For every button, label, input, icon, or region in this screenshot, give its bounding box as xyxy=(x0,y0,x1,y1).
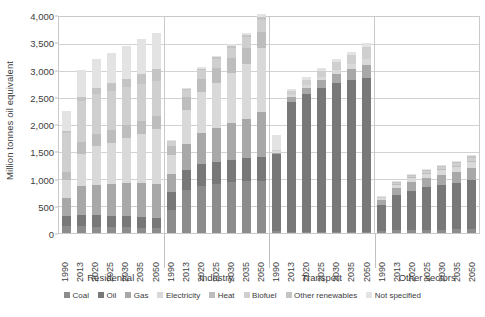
legend-item[interactable]: Oil xyxy=(98,291,116,300)
stacked-bar[interactable] xyxy=(62,111,71,233)
stacked-bar[interactable] xyxy=(137,39,146,234)
stacked-bar[interactable] xyxy=(92,59,101,233)
bar-slot xyxy=(389,17,404,233)
bar-segment xyxy=(107,184,116,216)
legend-item[interactable]: Gas xyxy=(125,291,148,300)
legend-swatch-icon xyxy=(157,292,163,298)
bar-segment xyxy=(167,155,176,175)
bar-segment xyxy=(212,184,221,233)
stacked-bar[interactable] xyxy=(407,174,416,233)
stacked-bar[interactable] xyxy=(377,196,386,233)
stacked-bar[interactable] xyxy=(242,33,251,233)
bar-segment xyxy=(62,180,71,197)
bar-slot xyxy=(239,17,254,233)
bar-slot xyxy=(404,17,419,233)
bar-slot xyxy=(434,17,449,233)
bar-segment xyxy=(152,129,161,184)
bar-segment xyxy=(62,172,71,180)
stacked-bar[interactable] xyxy=(362,43,371,233)
stacked-bar[interactable] xyxy=(347,52,356,233)
stacked-bar[interactable] xyxy=(272,135,281,233)
x-axis-group-separator xyxy=(375,234,376,268)
stacked-bar[interactable] xyxy=(317,68,326,233)
legend-item[interactable]: Heat xyxy=(209,291,234,300)
bar-slot xyxy=(134,17,149,233)
bar-segment xyxy=(407,191,416,230)
bar-segment xyxy=(227,48,236,58)
stacked-bar[interactable] xyxy=(122,46,131,233)
bar-segment xyxy=(152,228,161,233)
bar-segment xyxy=(332,74,341,83)
bar-segment xyxy=(92,227,101,233)
stacked-bar[interactable] xyxy=(182,88,191,233)
legend-label: Heat xyxy=(218,291,235,300)
legend-swatch-icon xyxy=(244,292,250,298)
stacked-bar[interactable] xyxy=(152,33,161,234)
legend-item[interactable]: Electricity xyxy=(157,291,200,300)
bar-segment xyxy=(137,228,146,233)
bar-segment xyxy=(287,102,296,232)
bar-segment xyxy=(212,128,221,162)
legend-label: Gas xyxy=(134,291,149,300)
bar-segment xyxy=(212,162,221,184)
x-axis-group-separator xyxy=(164,234,165,268)
bar-slot xyxy=(224,17,239,233)
stacked-bar[interactable] xyxy=(467,155,476,233)
stacked-bar[interactable] xyxy=(257,14,266,233)
legend-item[interactable]: Not specified xyxy=(366,291,421,300)
stacked-bar[interactable] xyxy=(212,56,221,233)
bar-slot xyxy=(344,17,359,233)
bar-segment xyxy=(242,48,251,63)
stacked-bar[interactable] xyxy=(77,70,86,233)
legend-label: Biofuel xyxy=(252,291,276,300)
bar-slot xyxy=(209,17,224,233)
stacked-bar[interactable] xyxy=(422,169,431,233)
plot-area xyxy=(58,16,480,234)
bar-segment xyxy=(92,59,101,87)
bar-segment xyxy=(302,232,311,233)
bar-segment xyxy=(392,195,401,230)
legend-item[interactable]: Other renewables xyxy=(286,291,358,300)
x-axis-group: 1990201320202025203020352050Transport xyxy=(269,234,375,282)
y-axis-tick-label: 0 xyxy=(49,229,54,240)
stacked-bar[interactable] xyxy=(167,140,176,233)
bar-segment xyxy=(242,119,251,158)
stacked-bar[interactable] xyxy=(392,181,401,233)
bar-group xyxy=(269,17,374,233)
bar-slot xyxy=(119,17,134,233)
legend-label: Coal xyxy=(73,291,89,300)
bar-segment xyxy=(197,164,206,185)
stacked-bar[interactable] xyxy=(227,44,236,233)
bar-segment xyxy=(107,216,116,227)
bar-segment xyxy=(257,32,266,48)
legend-item[interactable]: Coal xyxy=(64,291,89,300)
bar-segment xyxy=(227,182,236,233)
bar-segment xyxy=(107,130,116,143)
bar-segment xyxy=(197,79,206,93)
bar-slot xyxy=(284,17,299,233)
bar-segment xyxy=(452,172,461,183)
bar-slot xyxy=(314,17,329,233)
bar-slot xyxy=(359,17,374,233)
stacked-bar[interactable] xyxy=(332,59,341,233)
stacked-bar[interactable] xyxy=(287,89,296,233)
bar-slot xyxy=(194,17,209,233)
stacked-bar[interactable] xyxy=(452,161,461,233)
bar-segment xyxy=(407,182,416,190)
stacked-bar[interactable] xyxy=(302,77,311,233)
bar-slot xyxy=(59,17,74,233)
bar-segment xyxy=(152,218,161,228)
bar-slot xyxy=(74,17,89,233)
bar-segment xyxy=(62,111,71,131)
bar-segment xyxy=(437,230,446,233)
bar-segment xyxy=(122,138,131,183)
bar-segment xyxy=(77,226,86,233)
bar-segment xyxy=(152,184,161,218)
bar-segment xyxy=(122,79,131,87)
stacked-bar[interactable] xyxy=(197,67,206,233)
stacked-bar[interactable] xyxy=(437,165,446,233)
stacked-bar[interactable] xyxy=(107,53,116,233)
bar-segment xyxy=(287,232,296,233)
bar-segment xyxy=(227,160,236,182)
legend-item[interactable]: Biofuel xyxy=(244,291,277,300)
